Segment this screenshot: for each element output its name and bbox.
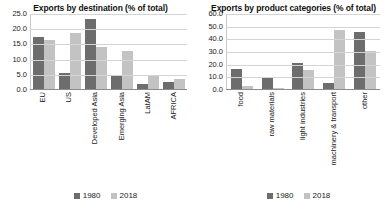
y-tick-label: 50.0 [208,23,223,31]
x-tick-label: machinery & transport [330,92,339,165]
x-tick-labels-destination: EUUSDeveloped AsiaEmerging AsiaLatAMAFRI… [30,90,187,158]
bar-group [57,14,83,89]
gridline [30,75,187,76]
legend-swatch-1980 [74,193,80,199]
x-tick-label: EU [39,92,48,102]
x-tick-label: Developed Asia [91,92,100,144]
bar-group [31,14,57,89]
bar-2018 [273,88,284,89]
y-tick-label: 15.0 [12,41,27,49]
legend-label: 2018 [120,192,138,200]
y-tick-label: 0.0 [17,86,27,94]
x-tick-labels-product: foodraw materialslight industriesmachine… [226,90,380,158]
legend-label: 1980 [276,192,294,200]
x-tick-label: AFRICA [170,92,179,120]
y-tick-label: 25.0 [12,10,27,18]
bar-1980 [262,78,273,89]
x-tick-cell: machinery & transport [318,90,349,158]
bar-1980 [323,83,334,89]
x-tick-cell: Emerging Asia [109,90,135,158]
bar-1980 [231,69,242,89]
y-tick-label: 10.0 [208,74,223,82]
bar-2018 [44,40,55,89]
x-tick-cell: other [349,90,380,158]
gridline [226,39,380,40]
bar-group [109,14,135,89]
chart-panel-destination: Exports by destination (% of total) 0.05… [0,0,193,210]
dual-bar-chart-figure: Exports by destination (% of total) 0.05… [0,0,386,210]
x-tick-label: other [361,92,370,109]
x-tick-cell: Developed Asia [82,90,108,158]
bar-group [83,14,109,89]
legend-product: 19802018 [193,192,386,200]
x-tick-cell: AFRICA [161,90,187,158]
bar-group [135,14,161,89]
legend-swatch-2018 [111,193,117,199]
gridline [226,65,380,66]
y-tick-label: 10.0 [12,56,27,64]
legend-item: 2018 [304,192,331,200]
y-tick-label: 60.0 [208,10,223,18]
gridline [30,44,187,45]
x-tick-label: LatAM [144,92,153,114]
gridline [30,14,187,15]
x-tick-label: raw materials [268,92,277,137]
legend-swatch-2018 [304,193,310,199]
legend-swatch-1980 [267,193,273,199]
chart-title-destination: Exports by destination (% of total) [0,0,193,14]
bar-1980 [292,63,303,89]
plot-area-product: 0.010.020.030.040.050.060.0 [226,14,380,90]
legend-item: 1980 [267,192,294,200]
gridline [30,29,187,30]
y-tick-label: 20.0 [208,61,223,69]
gridline [30,60,187,61]
bar-group [161,14,187,89]
gridline [226,14,380,15]
bars-layer-destination [31,14,187,89]
x-tick-cell: US [56,90,82,158]
y-tick-label: 30.0 [208,48,223,56]
y-axis-product: 0.010.020.030.040.050.060.0 [196,14,224,90]
y-tick-label: 20.0 [12,25,27,33]
x-tick-cell: EU [30,90,56,158]
y-tick-label: 40.0 [208,36,223,44]
chart-panel-product: Exports by product categories (% of tota… [193,0,386,210]
legend-destination: 19802018 [0,192,193,200]
y-tick-label: 0.0 [213,86,223,94]
bar-2018 [70,33,81,89]
y-tick-label: 5.0 [17,71,27,79]
legend-item: 1980 [74,192,101,200]
bar-1980 [111,76,122,89]
y-axis-destination: 0.05.010.015.020.025.0 [0,14,28,90]
bar-2018 [174,79,185,89]
legend-label: 2018 [313,192,331,200]
legend-item: 2018 [111,192,138,200]
x-tick-cell: light industries [288,90,319,158]
x-tick-cell: raw materials [257,90,288,158]
gridline [226,77,380,78]
x-tick-label: light industries [299,92,308,140]
bar-2018 [303,70,314,89]
bar-2018 [242,86,253,89]
gridline [226,27,380,28]
bar-1980 [163,82,174,90]
bar-2018 [365,51,376,89]
legend-label: 1980 [83,192,101,200]
x-tick-label: US [65,92,74,102]
x-tick-cell: food [226,90,257,158]
gridline [226,52,380,53]
x-tick-label: food [237,92,246,107]
bar-2018 [122,51,133,89]
bar-2018 [148,75,159,89]
plot-area-destination: 0.05.010.015.020.025.0 [30,14,187,90]
bar-1980 [137,84,148,89]
x-tick-label: Emerging Asia [118,92,127,140]
x-tick-cell: LatAM [135,90,161,158]
bar-2018 [96,47,107,89]
